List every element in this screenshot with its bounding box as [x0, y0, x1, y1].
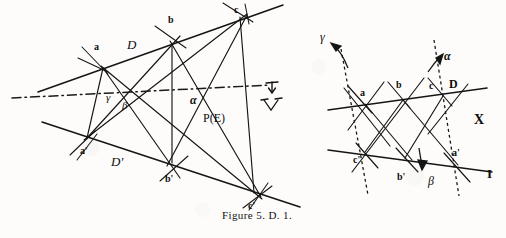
right-panel-geometry: [328, 78, 492, 182]
segment-c-bprime: [405, 96, 443, 158]
left-greek-label-gamma: γ: [106, 92, 110, 103]
left-line-label-D: D: [127, 38, 136, 51]
segment-cross-a-to-lower: [344, 88, 390, 146]
right-point-label-a: a: [360, 88, 365, 98]
gamma-arrow-right: [331, 43, 348, 68]
left-line-label-D-prime: D': [111, 155, 123, 168]
alpha-arrow-right: [428, 54, 443, 72]
right-set-label-X: X: [474, 113, 484, 127]
left-point-label-b-prime: b': [165, 174, 173, 184]
right-line-label-I: I: [487, 167, 492, 180]
right-line-label-D: D: [449, 78, 458, 90]
right-point-label-c: c: [429, 81, 433, 91]
right-point-label-b: b: [396, 80, 402, 90]
segment-b-cprime: [365, 100, 403, 152]
right-greek-label-beta: β: [428, 175, 434, 187]
right-point-label-b-prime: b': [397, 172, 405, 182]
right-point-label-a-prime: a': [452, 148, 460, 158]
left-point-label-b: b: [168, 15, 174, 25]
perspective-line-c-cprime: [240, 17, 254, 193]
segment-b-aprime: [403, 100, 458, 165]
right-point-label-c-prime: c': [353, 155, 360, 165]
dashed-transversal-alpha: [434, 40, 459, 196]
left-point-label-a: a: [94, 42, 99, 52]
dashed-transversal-gamma: [341, 49, 368, 195]
figure-5d1: a b c a' b' c' D D' γ β α P(E) a b c c' …: [0, 0, 506, 238]
figure-caption: Figure 5. D. 1.: [222, 209, 292, 221]
axis-end-annotation-left: [261, 82, 282, 110]
beta-arrow-right: [418, 148, 427, 170]
segment-cross-right-down: [428, 84, 468, 134]
left-point-label-c: c: [234, 5, 238, 15]
left-point-label-a-prime: a': [80, 146, 88, 156]
left-set-label-PE: P(E): [203, 112, 225, 124]
right-greek-label-gamma: γ: [320, 31, 325, 43]
left-greek-label-beta: β: [122, 100, 127, 111]
right-greek-label-alpha: α: [444, 50, 451, 62]
left-greek-label-alpha: α: [190, 94, 197, 106]
